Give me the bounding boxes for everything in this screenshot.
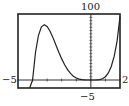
y-min-label: −5 — [80, 92, 95, 102]
graph-plot — [0, 0, 129, 106]
function-curve — [30, 17, 120, 88]
y-max-label: 100 — [81, 2, 100, 12]
x-min-label: −5 — [2, 75, 17, 85]
x-max-label: 2 — [122, 75, 128, 85]
